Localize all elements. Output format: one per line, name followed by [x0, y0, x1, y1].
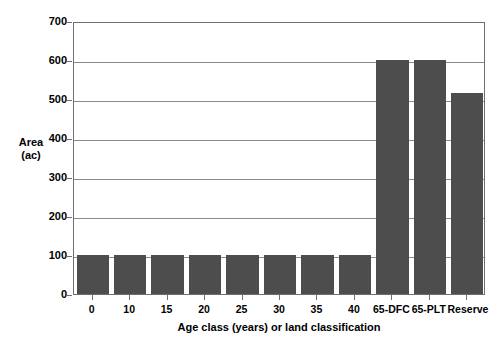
x-tick-label: 10	[110, 303, 147, 315]
x-tick-label: 30	[260, 303, 297, 315]
x-tick-label: 65-DFC	[373, 303, 410, 315]
x-tick-label: Reserve	[448, 303, 485, 315]
x-tick-mark	[204, 295, 205, 300]
y-tick-label: 600	[21, 55, 67, 66]
bar	[264, 255, 296, 294]
x-axis-title: Age class (years) or land classification	[73, 321, 485, 333]
x-tick-mark	[167, 295, 168, 300]
bar	[414, 60, 446, 294]
bar-chart: 0100200300400500600700 Area (ac) 0101520…	[0, 0, 497, 342]
plot-area	[73, 22, 485, 295]
x-tick-mark	[429, 295, 430, 300]
bar	[114, 255, 146, 294]
y-tick-mark	[67, 61, 72, 62]
x-tick-mark	[92, 295, 93, 300]
y-tick-mark	[67, 217, 72, 218]
bar	[451, 93, 483, 294]
x-tick-mark	[242, 295, 243, 300]
y-tick-label: 500	[21, 94, 67, 105]
y-axis-title-line2: (ac)	[8, 149, 54, 162]
y-tick-label: 200	[21, 211, 67, 222]
y-axis: 0100200300400500600700	[15, 0, 67, 342]
x-tick-mark	[354, 295, 355, 300]
x-tick-label: 15	[148, 303, 185, 315]
x-tick-label: 0	[73, 303, 110, 315]
x-tick-label: 40	[335, 303, 372, 315]
y-tick-mark	[67, 22, 72, 23]
y-tick-mark	[67, 139, 72, 140]
y-tick-mark	[67, 295, 72, 296]
bar	[151, 255, 183, 294]
x-tick-mark	[316, 295, 317, 300]
y-tick-mark	[67, 256, 72, 257]
bar	[226, 255, 258, 294]
bar	[189, 255, 221, 294]
y-tick-mark	[67, 100, 72, 101]
y-tick-label: 0	[21, 289, 67, 300]
x-tick-label: 65-PLT	[410, 303, 447, 315]
y-tick-label: 300	[21, 172, 67, 183]
x-tick-label: 20	[185, 303, 222, 315]
x-tick-mark	[466, 295, 467, 300]
bars	[74, 23, 484, 294]
bar	[376, 60, 408, 294]
y-tick-label: 100	[21, 250, 67, 261]
bar	[301, 255, 333, 294]
x-tick-label: 35	[298, 303, 335, 315]
x-tick-mark	[391, 295, 392, 300]
y-axis-title-line1: Area	[8, 136, 54, 149]
y-axis-title: Area (ac)	[8, 136, 54, 162]
bar	[77, 255, 109, 294]
y-tick-mark	[67, 178, 72, 179]
bar	[339, 255, 371, 294]
y-tick-label: 700	[21, 16, 67, 27]
x-tick-mark	[279, 295, 280, 300]
x-tick-label: 25	[223, 303, 260, 315]
x-tick-mark	[129, 295, 130, 300]
